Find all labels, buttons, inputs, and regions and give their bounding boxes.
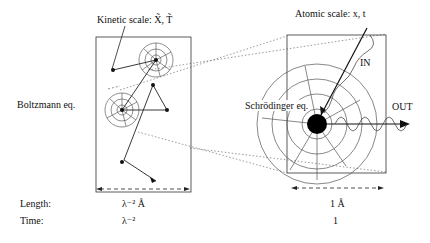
out-label: OUT [392, 101, 413, 112]
length-label: Length: [20, 198, 51, 209]
nucleus [307, 114, 327, 134]
incoming-wave [324, 35, 374, 113]
boltzmann-label: Boltzmann eq. [17, 99, 75, 110]
kinetic-scale-label: Kinetic scale: X̃, T̃ [97, 14, 172, 25]
diagram-canvas [0, 0, 430, 243]
time-atomic-value: 1 [333, 215, 338, 226]
length-atomic-value: 1 Å [330, 198, 345, 209]
time-label: Time: [20, 215, 44, 226]
kinetic-box [96, 37, 191, 192]
schrodinger-label: Schrödinger eq. [245, 100, 308, 111]
time-kinetic-value: λ⁻² [122, 215, 135, 226]
length-kinetic-value: λ⁻² Å [122, 198, 145, 209]
in-label: IN [360, 57, 371, 68]
atomic-scale-label: Atomic scale: x, t [295, 8, 366, 19]
